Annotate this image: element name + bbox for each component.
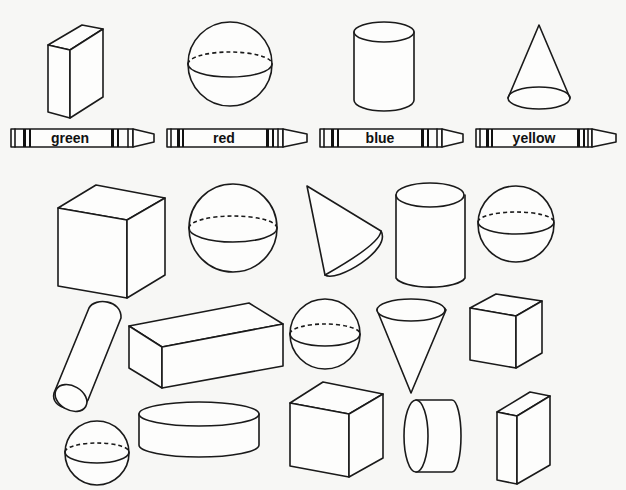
shape-cube-1[interactable] — [58, 185, 165, 298]
shape-cylinder-14[interactable] — [404, 400, 461, 472]
shape-cone-9[interactable] — [377, 299, 446, 393]
crayon-yellow[interactable]: yellow — [476, 129, 616, 147]
crayon-label-blue: blue — [366, 130, 395, 146]
shape-rectangular-prism-7[interactable] — [129, 303, 283, 388]
crayon-label-red: red — [213, 130, 235, 146]
shape-rectangular-prism-15[interactable] — [497, 392, 550, 484]
key-cone[interactable] — [508, 25, 570, 109]
shape-cylinder-6[interactable] — [50, 302, 121, 417]
shape-sphere-2[interactable] — [189, 184, 277, 272]
shape-cylinder-12[interactable] — [139, 402, 259, 457]
shape-cube-13[interactable] — [290, 382, 383, 477]
shape-cone-3[interactable] — [307, 186, 382, 276]
shapes-coloring-worksheet: green red blue yellow — [0, 0, 626, 490]
crayon-blue[interactable]: blue — [320, 129, 463, 147]
shape-sphere-8[interactable] — [290, 299, 360, 369]
key-rectangular-prism[interactable] — [48, 25, 103, 118]
shape-cylinder-4[interactable] — [396, 183, 465, 287]
crayon-green[interactable]: green — [11, 129, 154, 147]
key-sphere[interactable] — [188, 22, 272, 106]
shape-cube-10[interactable] — [470, 294, 542, 368]
shape-sphere-11[interactable] — [65, 421, 129, 485]
key-cylinder[interactable] — [354, 22, 414, 111]
shape-sphere-5[interactable] — [478, 186, 554, 262]
crayon-label-green: green — [51, 130, 89, 146]
crayon-red[interactable]: red — [167, 129, 307, 147]
crayon-label-yellow: yellow — [513, 130, 556, 146]
